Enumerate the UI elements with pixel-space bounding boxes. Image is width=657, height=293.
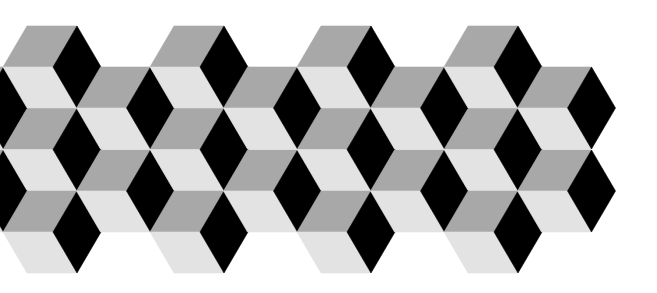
tumbling-blocks-pattern [0, 0, 657, 293]
pattern-canvas [0, 0, 657, 293]
